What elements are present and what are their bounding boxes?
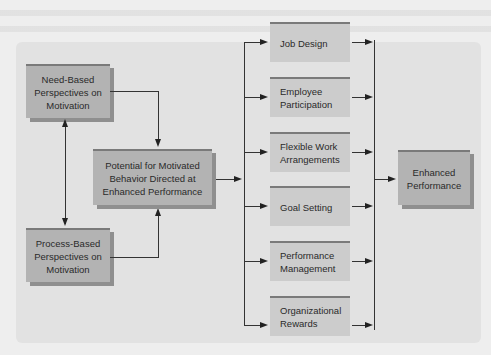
- need-based-label: Need-Based Perspectives on Motivation: [30, 73, 106, 112]
- arrow-down-icon: [155, 139, 161, 147]
- need-to-potential-h: [110, 91, 158, 92]
- need-based-box: Need-Based Perspectives on Motivation: [26, 64, 110, 118]
- arrow-right-icon: [260, 258, 268, 264]
- arrow-down-icon: [62, 218, 68, 226]
- potential-box: Potential for Motivated Behavior Directe…: [93, 149, 212, 205]
- enhanced-performance-box: Enhanced Performance: [398, 150, 470, 205]
- job-design-to-bus: [352, 42, 366, 43]
- strategy-label: Employee Participation: [280, 85, 350, 111]
- process-to-potential-h: [110, 257, 158, 258]
- strategy-label: Organizational Rewards: [280, 304, 350, 330]
- arrow-right-icon: [365, 258, 373, 264]
- arrow-right-icon: [260, 39, 268, 45]
- arrow-right-icon: [260, 94, 268, 100]
- strategy-label: Job Design: [280, 37, 328, 50]
- performance-management-to-bus: [352, 261, 366, 262]
- strategy-goal-setting: Goal Setting: [270, 186, 350, 226]
- strategy-label: Goal Setting: [280, 201, 332, 214]
- goal-setting-to-bus: [352, 206, 366, 207]
- arrow-right-icon: [234, 176, 242, 182]
- potential-label: Potential for Motivated Behavior Directe…: [97, 159, 208, 198]
- left-bus: [244, 42, 245, 325]
- strategy-flexible-work: Flexible Work Arrangements: [270, 132, 350, 172]
- potential-to-bus: [216, 179, 236, 180]
- strategy-organizational-rewards: Organizational Rewards: [270, 296, 350, 336]
- organizational-rewards-to-bus: [352, 325, 366, 326]
- enhanced-performance-label: Enhanced Performance: [402, 166, 466, 192]
- arrow-right-icon: [365, 39, 373, 45]
- arrow-right-icon: [260, 322, 268, 328]
- arrow-up-icon: [62, 119, 68, 127]
- process-based-box: Process-Based Perspectives on Motivation: [26, 228, 110, 282]
- page-show-through: [0, 0, 491, 42]
- strategy-job-design: Job Design: [270, 22, 350, 62]
- bidirectional-connector: [65, 122, 66, 224]
- strategy-label: Flexible Work Arrangements: [280, 140, 350, 166]
- process-to-potential-v: [158, 216, 159, 258]
- process-based-label: Process-Based Perspectives on Motivation: [30, 237, 106, 276]
- arrow-up-icon: [155, 208, 161, 216]
- strategy-employee-participation: Employee Participation: [270, 77, 350, 117]
- strategy-label: Performance Management: [280, 249, 350, 275]
- arrow-right-icon: [365, 149, 373, 155]
- arrow-right-icon: [365, 94, 373, 100]
- arrow-right-icon: [365, 322, 373, 328]
- strategy-performance-management: Performance Management: [270, 241, 350, 281]
- arrow-right-icon: [365, 203, 373, 209]
- arrow-right-icon: [388, 176, 396, 182]
- arrow-right-icon: [260, 203, 268, 209]
- need-to-potential-v: [158, 91, 159, 139]
- flexible-work-to-bus: [352, 152, 366, 153]
- arrow-right-icon: [260, 149, 268, 155]
- right-bus: [374, 40, 375, 330]
- employee-participation-to-bus: [352, 97, 366, 98]
